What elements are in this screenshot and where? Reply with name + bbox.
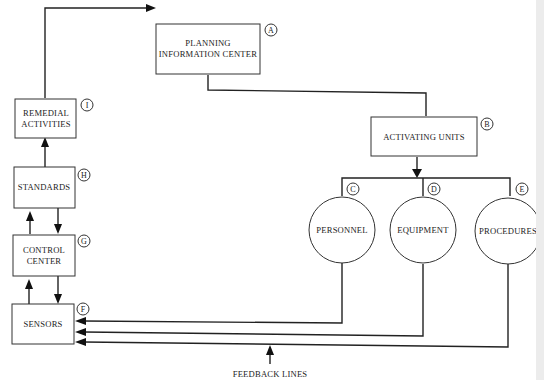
node-planning-information-center[interactable]: PLANNING INFORMATION CENTER A [156, 24, 277, 74]
control-feedback-diagram: PLANNING INFORMATION CENTER A ACTIVATING… [0, 0, 544, 380]
node-label: INFORMATION CENTER [159, 49, 257, 59]
node-badge: A [268, 26, 274, 35]
node-badge: F [81, 305, 86, 314]
node-label: ACTIVATING UNITS [383, 132, 465, 142]
node-label: CENTER [27, 256, 62, 266]
node-badge: G [81, 237, 87, 246]
node-remedial-activities[interactable]: REMEDIAL ACTIVITIES I [15, 99, 93, 138]
node-activating-units[interactable]: ACTIVATING UNITS B [371, 117, 493, 156]
node-control-center[interactable]: CONTROL CENTER G [13, 235, 90, 276]
node-badge: B [484, 120, 489, 129]
node-badge: C [350, 185, 355, 194]
edge-planning-to-activating [208, 75, 426, 116]
feedback-line-personnel [75, 262, 342, 325]
feedback-lines-pointer [266, 345, 274, 364]
node-label: CONTROL [23, 245, 65, 255]
node-label: PERSONNEL [316, 225, 367, 235]
node-label: ACTIVITIES [21, 119, 70, 129]
node-label: REMEDIAL [23, 108, 69, 118]
edge-activating-to-resources [342, 157, 510, 196]
node-label: EQUIPMENT [397, 225, 449, 235]
node-procedures[interactable]: PROCEDURES E [475, 183, 541, 264]
edge-control-to-standards [26, 211, 34, 234]
node-badge: I [86, 101, 89, 110]
node-label: SENSORS [23, 319, 62, 329]
node-sensors[interactable]: SENSORS F [12, 303, 89, 344]
edge-control-to-sensors [54, 276, 62, 304]
feedback-line-equipment [75, 264, 423, 336]
edge-remedial-to-planning [45, 4, 156, 98]
node-standards[interactable]: STANDARDS H [14, 167, 90, 208]
node-badge: D [431, 185, 437, 194]
edge-standards-to-control [54, 208, 62, 234]
edge-sensors-to-control [25, 279, 33, 304]
node-badge: H [81, 171, 87, 180]
node-label: PLANNING [185, 38, 231, 48]
node-label: STANDARDS [18, 182, 71, 192]
node-label: PROCEDURES [479, 226, 537, 236]
feedback-lines-caption: FEEDBACK LINES [233, 369, 308, 379]
page-edge-shadow [536, 0, 544, 380]
node-badge: E [520, 185, 525, 194]
